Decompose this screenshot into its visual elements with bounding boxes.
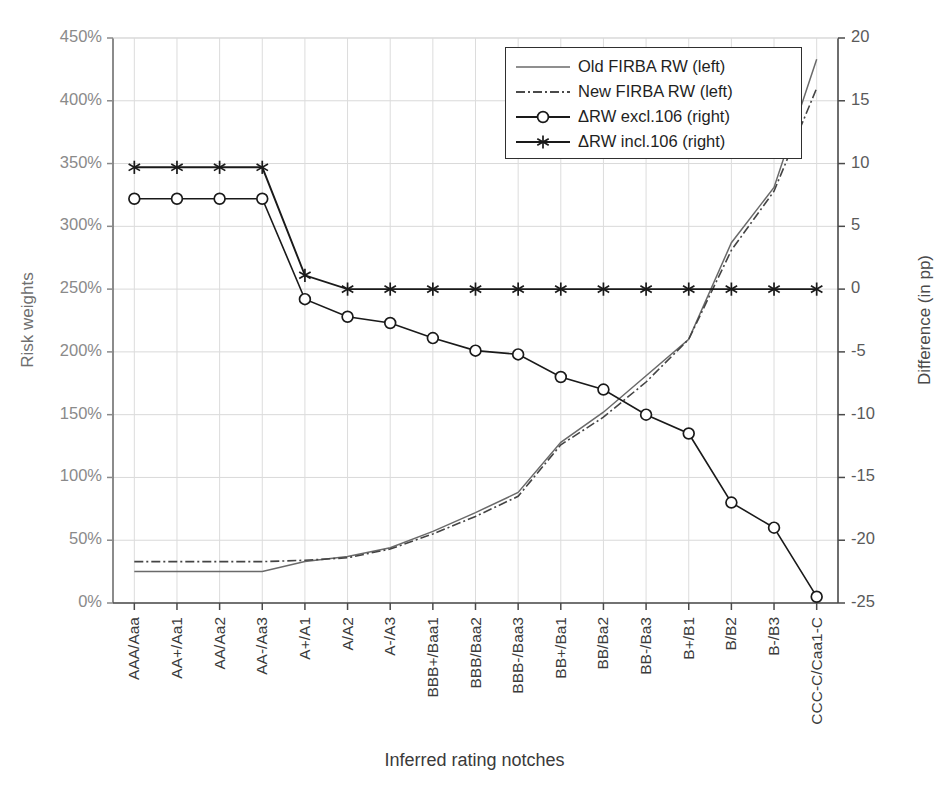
legend-item: New FIRBA RW (left) — [514, 79, 793, 104]
x-axis-tick-label: AA/Aa2 — [211, 617, 229, 670]
legend-label: New FIRBA RW (left) — [578, 82, 733, 101]
y-axis-left-tick-label: 0% — [30, 592, 102, 611]
data-point-marker-circle — [129, 193, 140, 204]
y-axis-right-tick-label: -15 — [851, 466, 875, 485]
data-point-marker-circle — [300, 294, 311, 305]
y-axis-right-tick-label: -10 — [851, 404, 875, 423]
legend-swatch-2 — [514, 81, 572, 103]
x-axis-tick-label: BB-/Ba3 — [637, 617, 655, 675]
data-point-marker-circle — [257, 193, 268, 204]
data-point-marker-circle — [811, 591, 822, 602]
data-point-marker-circle — [683, 428, 694, 439]
chart-figure: Risk weights Difference (in pp) Inferred… — [0, 0, 949, 796]
data-point-marker-circle — [726, 497, 737, 508]
x-axis-tick-label: B/B2 — [722, 617, 740, 651]
data-point-marker-circle — [641, 409, 652, 420]
data-point-marker-circle — [555, 372, 566, 383]
x-axis-tick-label: BB+/Ba1 — [552, 617, 570, 679]
data-point-marker-circle — [513, 349, 524, 360]
y-axis-right-tick-label: 5 — [851, 215, 860, 234]
data-point-marker-circle — [427, 333, 438, 344]
data-point-marker-circle — [172, 193, 183, 204]
x-axis-tick-label: BBB/Baa2 — [467, 617, 485, 689]
y-axis-left-tick-label: 400% — [30, 90, 102, 109]
y-axis-left-tick-label: 50% — [30, 529, 102, 548]
x-axis-tick-label: B-/B3 — [765, 617, 783, 656]
y-axis-right-tick-label: -20 — [851, 529, 875, 548]
x-axis-tick-label: BB/Ba2 — [594, 617, 612, 670]
x-axis-tick-label: BBB-/Baa3 — [509, 617, 527, 694]
legend-label: Old FIRBA RW (left) — [578, 57, 725, 76]
data-point-marker-asterisk — [299, 269, 310, 282]
y-axis-left-tick-label: 450% — [30, 27, 102, 46]
x-axis-tick-label: AAA/Aaa — [125, 617, 143, 680]
data-point-marker-circle — [769, 522, 780, 533]
data-point-marker-circle — [342, 311, 353, 322]
x-axis-tick-label: AA+/Aa1 — [168, 617, 186, 679]
y-axis-left-tick-label: 150% — [30, 404, 102, 423]
legend-label: ΔRW excl.106 (right) — [578, 107, 730, 126]
y-axis-left-tick-label: 200% — [30, 341, 102, 360]
x-axis-tick-label: A-/A3 — [381, 617, 399, 656]
data-point-marker-circle — [598, 384, 609, 395]
y-axis-left-tick-label: 100% — [30, 466, 102, 485]
legend-label: ΔRW incl.106 (right) — [578, 132, 725, 151]
x-axis-tick-label: B+/B1 — [680, 617, 698, 660]
x-axis-tick-label: BBB+/Baa1 — [424, 617, 442, 698]
legend-item: Old FIRBA RW (left) — [514, 54, 793, 79]
y-axis-right-tick-label: -25 — [851, 592, 875, 611]
legend-item: ΔRW excl.106 (right) — [514, 104, 793, 129]
y-axis-right-tick-label: 20 — [851, 27, 869, 46]
y-axis-right-tick-label: 15 — [851, 90, 869, 109]
x-axis-tick-label: CCC-C/Caa1-C — [808, 617, 826, 725]
x-axis-tick-label: A+/A1 — [296, 617, 314, 660]
legend-item: ΔRW incl.106 (right) — [514, 129, 793, 154]
data-point-marker-circle — [470, 345, 481, 356]
legend-swatch-4 — [514, 131, 572, 153]
legend-swatch-1 — [514, 56, 572, 78]
data-point-marker-circle — [214, 193, 225, 204]
legend: Old FIRBA RW (left)New FIRBA RW (left)ΔR… — [505, 47, 802, 159]
y-axis-right-tick-label: 10 — [851, 153, 869, 172]
legend-swatch-3 — [514, 106, 572, 128]
y-axis-right-tick-label: 0 — [851, 278, 860, 297]
y-axis-left-tick-label: 350% — [30, 153, 102, 172]
x-axis-tick-label: A/A2 — [339, 617, 357, 651]
y-axis-left-tick-label: 300% — [30, 215, 102, 234]
x-axis-tick-label: AA-/Aa3 — [253, 617, 271, 675]
y-axis-left-tick-label: 250% — [30, 278, 102, 297]
data-point-marker-circle — [385, 318, 396, 329]
y-axis-right-tick-label: -5 — [851, 341, 866, 360]
